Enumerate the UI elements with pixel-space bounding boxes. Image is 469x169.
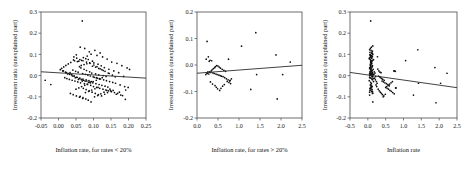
scatter-point [369, 51, 371, 53]
scatter-point [386, 86, 388, 88]
scatter-point [108, 68, 110, 70]
scatter-point [368, 80, 370, 82]
y-tick-label: -0.2 [183, 115, 193, 121]
scatter-point [383, 81, 385, 83]
scatter-point [64, 77, 66, 79]
scatter-point [126, 67, 128, 69]
scatter-point [101, 85, 103, 87]
scatter-point [78, 79, 80, 81]
scatter-point [90, 101, 92, 103]
scatter-point [77, 61, 79, 63]
x-tick-label: 1.0 [400, 123, 408, 129]
x-tick-label: 0.0 [193, 123, 201, 129]
scatter-point [374, 79, 376, 81]
scatter-point [74, 80, 76, 82]
scatter-point [222, 85, 224, 87]
scatter-point [115, 82, 117, 84]
scatter-point [376, 81, 378, 83]
scatter-point [372, 79, 374, 81]
scatter-point [395, 87, 397, 89]
plot-frame [197, 12, 302, 118]
y-tick-label: -0.2 [336, 115, 346, 121]
y-tick-label: -0.2 [27, 115, 37, 121]
scatter-point [65, 65, 67, 67]
scatter-point [101, 77, 103, 79]
scatter-point [106, 80, 108, 82]
scatter-point [384, 93, 386, 95]
scatter-point [107, 92, 109, 94]
scatter-point [224, 77, 226, 79]
scatter-point [104, 93, 106, 95]
scatter-point [79, 66, 81, 68]
y-tick-label: 0.1 [29, 52, 37, 58]
scatter-point [377, 88, 379, 90]
scatter-point [102, 56, 104, 58]
scatter-point [78, 87, 80, 89]
scatter-point [217, 88, 219, 90]
scatter-point [97, 63, 99, 65]
scatter-point [377, 68, 379, 70]
y-tick-label: 0.1 [338, 52, 346, 58]
scatter-point [391, 90, 393, 92]
scatter-point [44, 79, 46, 81]
scatter-point [80, 67, 82, 69]
scatter-point [435, 102, 437, 104]
y-tick-label: 0.2 [338, 30, 346, 36]
plot-frame [350, 12, 457, 118]
scatter-point [109, 88, 111, 90]
y-tick-label: 0.0 [338, 73, 346, 79]
x-tick-label: 0.25 [141, 123, 152, 129]
scatter-point [87, 59, 89, 61]
scatter-point [72, 94, 74, 96]
scatter-point [214, 85, 216, 87]
scatter-point [229, 80, 231, 82]
scatter-point [96, 66, 98, 68]
scatter-point [383, 79, 385, 81]
scatter-point [103, 79, 105, 81]
scatter-point [389, 83, 391, 85]
scatter-points [44, 20, 130, 103]
x-tick-label: 2.5 [453, 123, 461, 129]
scatter-point [100, 93, 102, 95]
scatter-point [227, 79, 229, 81]
scatter-point [221, 75, 223, 77]
scatter-point [377, 56, 379, 58]
scatter-point [94, 50, 96, 52]
scatter-point [115, 93, 117, 95]
scatter-point [208, 60, 210, 62]
y-tick-label: -0.1 [27, 94, 37, 100]
scatter-point [370, 60, 372, 62]
scatter-point [216, 74, 218, 76]
scatter-point [85, 58, 87, 60]
scatter-point [121, 65, 123, 67]
scatter-point [226, 78, 228, 80]
scatter-point [124, 86, 126, 88]
scatter-point [371, 65, 373, 67]
scatter-point [71, 79, 73, 81]
scatter-point [94, 96, 96, 98]
scatter-point [373, 59, 375, 61]
scatter-point [76, 54, 78, 56]
scatter-point [83, 68, 85, 70]
scatter-point [112, 82, 114, 84]
scatter-panel-inflation-below-20: -0.050.000.050.100.150.200.250.30.20.10.… [0, 0, 156, 169]
scatter-point [222, 76, 224, 78]
scatter-point [275, 54, 277, 56]
scatter-point [91, 91, 93, 93]
y-tick-label: 0.3 [29, 9, 37, 15]
x-tick-label: -0.5 [345, 123, 355, 129]
scatter-point [129, 69, 131, 71]
scatter-point [59, 69, 61, 71]
scatter-point [74, 60, 76, 62]
scatter-point [96, 55, 98, 57]
scatter-point [72, 75, 74, 77]
scatter-point [89, 71, 91, 73]
scatter-point [386, 87, 388, 89]
scatter-point [102, 70, 104, 72]
x-tick-label: 1.5 [256, 123, 264, 129]
scatter-point [382, 96, 384, 98]
scatter-point [205, 58, 207, 60]
scatter-panel-inflation-above-20: 0.00.51.01.52.02.50.20.10.0-0.1-0.2Inves… [156, 0, 312, 169]
scatter-point [90, 82, 92, 84]
scatter-panel-inflation-all: -0.50.00.51.01.52.02.50.30.20.10.0-0.1-0… [312, 0, 469, 169]
